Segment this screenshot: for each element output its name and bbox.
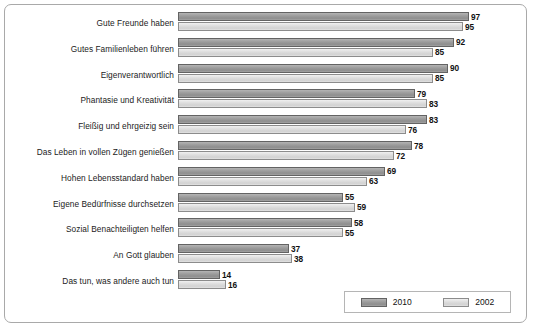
bar-2010: 14 bbox=[178, 270, 220, 279]
bar-value-label: 85 bbox=[435, 73, 444, 83]
bar-value-label: 58 bbox=[354, 218, 363, 228]
bar-group: 7872 bbox=[178, 141, 412, 161]
chart-row: Eigenverantwortlich9085 bbox=[0, 63, 535, 87]
bar-value-label: 16 bbox=[228, 280, 237, 290]
chart-row: Fleißig und ehrgeizig sein8376 bbox=[0, 114, 535, 138]
category-label: Fleißig und ehrgeizig sein bbox=[8, 121, 174, 131]
bar-value-label: 95 bbox=[465, 22, 474, 32]
bar-2002: 76 bbox=[178, 125, 406, 134]
bar-2002: 38 bbox=[178, 254, 292, 263]
bar-2010: 97 bbox=[178, 12, 469, 21]
bar-group: 9085 bbox=[178, 64, 448, 84]
bar-value-label: 55 bbox=[345, 192, 354, 202]
bar-2010: 79 bbox=[178, 89, 415, 98]
category-label: Das Leben in vollen Zügen genießen bbox=[8, 147, 174, 157]
bar-2002: 59 bbox=[178, 203, 355, 212]
bar-value-label: 63 bbox=[369, 176, 378, 186]
category-label: Eigenverantwortlich bbox=[8, 70, 174, 80]
bar-2010: 78 bbox=[178, 141, 412, 150]
bar-group: 8376 bbox=[178, 115, 427, 135]
bar-value-label: 14 bbox=[222, 270, 231, 280]
bar-value-label: 59 bbox=[357, 202, 366, 212]
category-label: Hohen Lebensstandard haben bbox=[8, 173, 174, 183]
bar-group: 1416 bbox=[178, 270, 226, 290]
legend-label-2010: 2010 bbox=[393, 297, 412, 307]
chart-row: Das Leben in vollen Zügen genießen7872 bbox=[0, 140, 535, 164]
bar-group: 7983 bbox=[178, 89, 427, 109]
plot-area: Gute Freunde haben9795Gutes Familienlebe… bbox=[0, 0, 535, 331]
chart-row: Phantasie und Kreativität7983 bbox=[0, 88, 535, 112]
bar-value-label: 83 bbox=[429, 115, 438, 125]
category-label: Eigene Bedürfnisse durchsetzen bbox=[8, 199, 174, 209]
bar-2002: 85 bbox=[178, 48, 433, 57]
bar-2010: 58 bbox=[178, 218, 352, 227]
legend-label-2002: 2002 bbox=[475, 297, 494, 307]
category-label: Gute Freunde haben bbox=[8, 18, 174, 28]
bar-value-label: 85 bbox=[435, 47, 444, 57]
bar-2010: 55 bbox=[178, 193, 343, 202]
bar-group: 5559 bbox=[178, 193, 355, 213]
bar-2002: 95 bbox=[178, 22, 463, 31]
bar-2002: 83 bbox=[178, 99, 427, 108]
bar-value-label: 38 bbox=[294, 254, 303, 264]
bar-group: 9795 bbox=[178, 12, 469, 32]
category-label: An Gott glauben bbox=[8, 250, 174, 260]
chart-row: Sozial Benachteiligten helfen5855 bbox=[0, 217, 535, 241]
bar-value-label: 72 bbox=[396, 151, 405, 161]
bar-2002: 16 bbox=[178, 280, 226, 289]
legend-item-2010: 2010 bbox=[361, 297, 412, 307]
bar-2010: 37 bbox=[178, 244, 289, 253]
bar-value-label: 37 bbox=[291, 244, 300, 254]
bar-2002: 72 bbox=[178, 151, 394, 160]
bar-value-label: 83 bbox=[429, 99, 438, 109]
category-label: Gutes Familienleben führen bbox=[8, 44, 174, 54]
bar-value-label: 92 bbox=[456, 37, 465, 47]
chart-row: Hohen Lebensstandard haben6963 bbox=[0, 166, 535, 190]
legend-swatch-2010 bbox=[361, 298, 387, 307]
bar-value-label: 79 bbox=[417, 89, 426, 99]
bar-value-label: 90 bbox=[450, 63, 459, 73]
bar-value-label: 76 bbox=[408, 125, 417, 135]
bar-2010: 90 bbox=[178, 64, 448, 73]
bar-group: 3738 bbox=[178, 244, 292, 264]
bar-value-label: 78 bbox=[414, 141, 423, 151]
bar-2010: 92 bbox=[178, 38, 454, 47]
bar-group: 9285 bbox=[178, 38, 454, 58]
chart-legend: 2010 2002 bbox=[344, 291, 511, 313]
bar-2002: 85 bbox=[178, 74, 433, 83]
chart-row: An Gott glauben3738 bbox=[0, 243, 535, 267]
bar-value-label: 55 bbox=[345, 228, 354, 238]
bar-group: 5855 bbox=[178, 218, 352, 238]
chart-row: Gutes Familienleben führen9285 bbox=[0, 37, 535, 61]
legend-item-2002: 2002 bbox=[443, 297, 494, 307]
bar-chart-figure: Gute Freunde haben9795Gutes Familienlebe… bbox=[0, 0, 535, 331]
category-label: Phantasie und Kreativität bbox=[8, 95, 174, 105]
bar-2002: 55 bbox=[178, 228, 343, 237]
bar-value-label: 97 bbox=[471, 12, 480, 22]
category-label: Sozial Benachteiligten helfen bbox=[8, 224, 174, 234]
category-label: Das tun, was andere auch tun bbox=[8, 276, 174, 286]
chart-row: Gute Freunde haben9795 bbox=[0, 11, 535, 35]
bar-2010: 69 bbox=[178, 167, 385, 176]
bar-group: 6963 bbox=[178, 167, 385, 187]
chart-row: Das tun, was andere auch tun1416 bbox=[0, 269, 535, 293]
bar-2002: 63 bbox=[178, 177, 367, 186]
bar-value-label: 69 bbox=[387, 166, 396, 176]
legend-swatch-2002 bbox=[443, 298, 469, 307]
chart-row: Eigene Bedürfnisse durchsetzen5559 bbox=[0, 192, 535, 216]
bar-2010: 83 bbox=[178, 115, 427, 124]
